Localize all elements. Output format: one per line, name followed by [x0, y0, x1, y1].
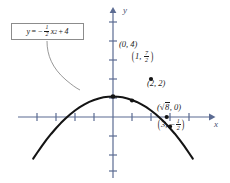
parabola-figure: y = − 1 2 x2 + 4 y x (0, 4) (1, 72) (2, …: [0, 0, 230, 183]
y-axis-label: y: [123, 5, 127, 15]
p1-close-paren: ): [150, 52, 153, 62]
p4-close-paren: ): [182, 120, 185, 130]
p1-y-fraction: 72: [144, 50, 149, 63]
p1-x: 1,: [135, 52, 144, 61]
point-label-p1: (1, 72): [131, 50, 154, 63]
leader-line: [47, 41, 80, 90]
vertex-close-paren: ): [135, 40, 138, 49]
p1-open-paren: (: [132, 52, 135, 62]
point-label-p3: (√8, 0): [157, 102, 181, 112]
point-label-p4: (3, −12): [157, 118, 186, 131]
equation-box: y = − 1 2 x2 + 4: [11, 23, 84, 40]
p4-open-paren: (: [158, 120, 161, 130]
equation-plus: +: [58, 27, 63, 36]
x-axis-label: x: [214, 119, 218, 129]
p2-close-paren: ): [163, 79, 166, 88]
point-marker-p1: [130, 98, 134, 102]
p3-close-paren: ): [178, 103, 181, 112]
equation-equals: =: [31, 27, 36, 36]
equation-text: y = − 1 2 x2 + 4: [27, 25, 69, 38]
fraction-denominator: 2: [44, 31, 49, 38]
p4-x: 3, −: [161, 120, 175, 129]
point-marker-vertex: [111, 94, 116, 99]
p4-y-fraction: 12: [176, 118, 181, 131]
point-label-p2: (2, 2): [147, 79, 165, 88]
equation-lhs: y: [27, 27, 31, 36]
equation-constant: 4: [64, 27, 68, 36]
equation-variable-term: x2: [51, 27, 57, 36]
p3-x-radical: √8: [160, 102, 170, 112]
equation-minus: −: [38, 27, 43, 36]
y-axis-arrowhead: [110, 7, 117, 13]
point-label-vertex: (0, 4): [119, 40, 137, 49]
equation-coefficient-fraction: 1 2: [44, 25, 49, 38]
